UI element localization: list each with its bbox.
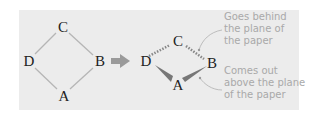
- wedge-bond-right: [182, 66, 207, 82]
- svg-text:of the paper: of the paper: [224, 89, 286, 100]
- svg-text:above the plane: above the plane: [224, 77, 305, 88]
- atom-d-3d-label: D: [141, 53, 152, 69]
- atom-d-label: D: [24, 53, 35, 69]
- wedge-bond-left: [155, 65, 173, 82]
- svg-text:Goes behind: Goes behind: [224, 11, 287, 22]
- atom-a-3d-label: A: [173, 77, 184, 93]
- atom-c-3d-label: C: [173, 33, 183, 49]
- svg-text:Comes out: Comes out: [224, 65, 278, 76]
- atom-a-label: A: [59, 88, 70, 104]
- atom-b-3d-label: B: [207, 55, 217, 71]
- annotation-above: Comes out above the plane of the paper: [224, 65, 305, 100]
- atom-c-label: C: [58, 19, 68, 35]
- diagram-canvas: C D B A C D B A Goes behind the plane of…: [0, 0, 320, 118]
- svg-text:the paper: the paper: [224, 35, 274, 46]
- svg-text:the plane of: the plane of: [224, 23, 285, 34]
- atom-b-label: B: [95, 53, 105, 69]
- leader-line-behind: [199, 30, 222, 50]
- flat-structure: C D B A: [24, 19, 105, 104]
- right-arrow-icon: [111, 54, 130, 68]
- annotation-behind: Goes behind the plane of the paper: [224, 11, 287, 46]
- leader-line-above: [200, 78, 222, 90]
